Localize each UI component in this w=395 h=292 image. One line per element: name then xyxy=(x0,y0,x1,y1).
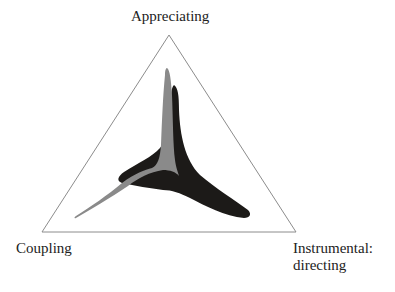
vertex-label-line2: directing xyxy=(293,257,383,274)
vertex-label-coupling: Coupling xyxy=(16,240,72,257)
vertex-label-instrumental-directing: Instrumental: directing xyxy=(293,240,383,274)
vertex-label-line1: Instrumental: xyxy=(293,240,383,257)
black-profile-shape xyxy=(118,85,250,218)
vertex-label-appreciating: Appreciating xyxy=(131,8,209,25)
gray-profile-shape xyxy=(75,68,180,218)
